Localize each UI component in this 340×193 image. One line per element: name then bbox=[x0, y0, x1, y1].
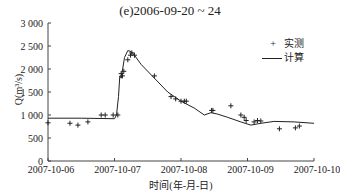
x-tick-label: 2007-10-10 bbox=[294, 164, 340, 175]
legend-item-computed: 计算 bbox=[262, 51, 304, 65]
observed-point-marker bbox=[125, 57, 130, 62]
observed-point-marker bbox=[277, 126, 282, 131]
observed-point-marker bbox=[228, 103, 233, 108]
observed-point-marker bbox=[169, 94, 174, 99]
legend-label-computed: 计算 bbox=[284, 51, 304, 65]
legend-item-observed: + 实测 bbox=[262, 37, 304, 51]
observed-point-marker bbox=[46, 120, 51, 125]
y-tick-label: 500 bbox=[28, 133, 43, 144]
observed-point-marker bbox=[152, 73, 157, 78]
x-tick-label: 2007-10-07 bbox=[94, 164, 141, 175]
y-tick-label: 2 500 bbox=[21, 41, 44, 52]
legend-label-observed: 实测 bbox=[284, 37, 304, 51]
y-tick-label: 1 000 bbox=[21, 110, 44, 121]
observed-point-marker bbox=[103, 113, 108, 118]
y-tick-label: 2 000 bbox=[21, 64, 44, 75]
x-tick-label: 2007-10-08 bbox=[161, 164, 208, 175]
y-axis-label: Q(m³/s) bbox=[13, 70, 24, 110]
x-tick-label: 2007-10-09 bbox=[227, 164, 274, 175]
observed-point-marker bbox=[85, 119, 90, 124]
line-swatch-icon bbox=[262, 58, 282, 59]
x-axis-label: 时间(年-月-日) bbox=[48, 177, 314, 192]
observed-point-marker bbox=[238, 113, 243, 118]
y-tick-label: 1 500 bbox=[21, 87, 44, 98]
observed-point-marker bbox=[111, 113, 116, 118]
x-tick-label: 2007-10-06 bbox=[28, 164, 75, 175]
observed-point-marker bbox=[173, 96, 178, 101]
observed-point-marker bbox=[67, 121, 72, 126]
legend: + 实测 计算 bbox=[262, 37, 304, 65]
plot-area: 05001 0001 5002 0002 5003 0002007-10-062… bbox=[0, 0, 340, 193]
chart: (e)2006-09-20 ~ 24 05001 0001 5002 0002 … bbox=[0, 0, 340, 193]
y-tick-label: 3 000 bbox=[21, 18, 44, 29]
plus-marker-icon: + bbox=[262, 37, 284, 51]
observed-point-marker bbox=[75, 123, 80, 128]
